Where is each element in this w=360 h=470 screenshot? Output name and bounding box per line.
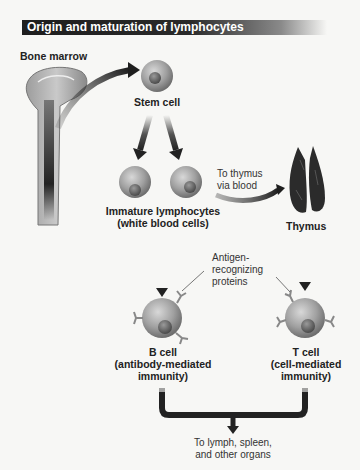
stem-cell-icon [141,60,173,92]
diagram-graphics [0,0,360,470]
label-thymus: Thymus [286,220,326,232]
label-antigen-recognizing-proteins: Antigen- recognizing proteins [212,252,263,288]
label-destination: To lymph, spleen, and other organs [183,437,283,461]
immature-lymphocyte-icon [170,166,202,198]
merge-arrow [159,384,308,434]
immature-lymphocyte-icon [119,166,151,198]
label-stem-cell: Stem cell [134,96,180,108]
label-b-cell: B cell (antibody-mediated immunity) [107,346,219,382]
b-cell-icon [134,291,188,344]
bone-icon [26,67,87,225]
thymus-icon [290,146,325,213]
label-immature-lymphocytes: Immature lymphocytes (white blood cells) [98,205,228,229]
label-bone-marrow: Bone marrow [20,50,87,62]
label-t-cell: T cell (cell-mediated immunity) [262,346,350,382]
label-to-thymus: To thymus via blood [217,168,263,192]
t-cell-icon [277,290,334,338]
